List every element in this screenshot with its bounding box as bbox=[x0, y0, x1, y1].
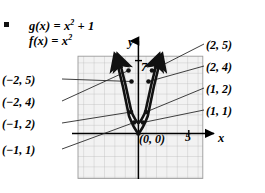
point-label-neg1-1: (−1, 1) bbox=[2, 143, 35, 158]
x-axis-label: x bbox=[218, 131, 224, 146]
point-2-5 bbox=[150, 68, 155, 73]
point-label-neg2-4: (−2, 4) bbox=[2, 95, 35, 110]
y-tick-label-7: 7 bbox=[141, 60, 147, 75]
point-2-4 bbox=[146, 79, 151, 84]
point-neg1-2 bbox=[129, 110, 134, 115]
parabola-graph-figure: g(x) = x2 + 1 f(x) = x2 bbox=[0, 0, 265, 193]
y-axis-label: y bbox=[128, 35, 134, 50]
point-label-1-2: (1, 2) bbox=[206, 82, 232, 97]
point-label-origin: (0, 0) bbox=[139, 132, 165, 147]
point-label-2-4: (2, 4) bbox=[206, 60, 232, 75]
point-label-2-5: (2, 5) bbox=[206, 38, 232, 53]
point-1-1 bbox=[141, 120, 146, 125]
point-neg1-1 bbox=[132, 120, 137, 125]
point-label-1-1: (1, 1) bbox=[206, 104, 232, 119]
point-neg2-5 bbox=[129, 79, 134, 84]
point-label-neg1-2: (−1, 2) bbox=[2, 117, 35, 132]
x-tick-label-5: 5 bbox=[185, 130, 191, 145]
point-1-2 bbox=[144, 110, 149, 115]
point-label-neg2-5: (−2, 5) bbox=[2, 73, 35, 88]
point-neg2-4 bbox=[126, 68, 131, 73]
